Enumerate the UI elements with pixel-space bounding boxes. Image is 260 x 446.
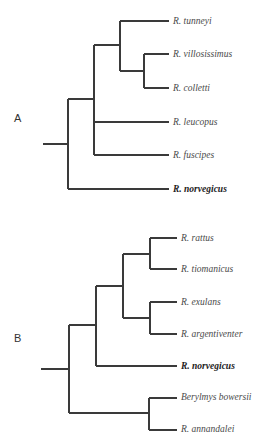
taxon-label: R. colletti — [172, 83, 210, 93]
tree-a-branches — [43, 21, 169, 189]
taxon-label: R. villosissimus — [172, 49, 232, 59]
taxon-label: R. argentiventer — [180, 329, 243, 339]
taxon-label: R. norvegicus — [172, 184, 227, 194]
taxon-label: R. norvegicus — [180, 361, 235, 371]
taxon-label: R. exulans — [180, 297, 221, 307]
tree-b-taxa: R. rattusR. tiomanicusR. exulansR. argen… — [180, 233, 252, 434]
taxon-label: R. rattus — [180, 233, 214, 243]
taxon-label: R. leucopus — [172, 117, 218, 127]
panel-label-b: B — [14, 332, 21, 344]
taxon-label: R. fuscipes — [172, 150, 214, 160]
taxon-label: R. tiomanicus — [180, 264, 234, 274]
taxon-label: R. tunneyi — [172, 16, 212, 26]
tree-a-taxa: R. tunneyiR. villosissimusR. collettiR. … — [172, 16, 232, 194]
taxon-label: Berylmys bowersii — [181, 392, 252, 402]
phylogeny-figure: A R. tunneyiR. villosissimusR. collettiR… — [0, 0, 260, 446]
tree-panel-b: B R. rattusR. tiomanicusR. exulansR. arg… — [14, 233, 252, 434]
tree-b-branches — [41, 238, 177, 430]
taxon-label: R. annandalei — [180, 424, 235, 434]
tree-panel-a: A R. tunneyiR. villosissimusR. collettiR… — [14, 16, 232, 194]
panel-label-a: A — [14, 112, 22, 124]
